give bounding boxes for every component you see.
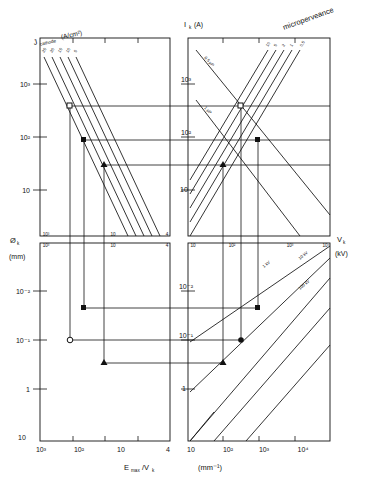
ul-family-label-5: 5 <box>73 48 79 53</box>
tick-ll-y-0_1: 10⁻¹ <box>16 337 31 344</box>
marker-point-a-lower-right <box>238 337 244 343</box>
tick-ul-y-1000: 10³ <box>20 81 31 88</box>
ul-family-label-25: 25 <box>41 46 48 53</box>
tick-bl-x-100: 10² <box>74 446 85 453</box>
lr-family-label-10kv: 10 kV <box>297 250 309 261</box>
quadrant-upper-left-frame <box>40 38 170 236</box>
marker-point-a-lower-left <box>67 337 73 343</box>
marker-point-b-lower-left <box>81 305 86 310</box>
ul-family-label-20: 20 <box>49 46 56 53</box>
marker-point-c-lower-left <box>101 359 108 365</box>
ur-family-label-5: 5 <box>273 42 279 47</box>
tick-mid-10: 10 <box>110 243 116 248</box>
tick-mid-left-1000: 10³ <box>43 243 50 248</box>
lr-family-label-100kv: 100 kV <box>297 278 310 290</box>
tick-ll-y-1: 1 <box>26 386 30 393</box>
tick-bl-x-1000: 10³ <box>36 446 47 453</box>
tick-br-x-100: 10² <box>223 446 234 453</box>
axis-label-phi-k: Ø k (mm) <box>9 236 25 261</box>
caption-microperveance: microperveance <box>282 5 335 32</box>
tick-bl-x-4: 4 <box>166 446 170 453</box>
nomogram-canvas: 10³ 10² 10 10³ 10² 10 10⁻² 10⁻¹ 1 <box>0 0 374 488</box>
axis-label-phi-k-sub: k <box>17 241 20 246</box>
marker-point-a-upper-left <box>67 103 72 108</box>
tick-br-x-10: 10 <box>187 446 195 453</box>
axis-label-vk-denom-sub: k <box>152 468 155 473</box>
ur-family-label-1: 1 <box>289 42 295 47</box>
tick-ul-bottom-1000: 10³ <box>43 232 50 237</box>
axis-label-emax: E <box>124 463 129 472</box>
axis-label-ik-main: I <box>184 20 186 29</box>
tick-mid-right-10: 10 <box>190 243 196 248</box>
curve-family-upper-right <box>190 50 300 236</box>
tick-lm-y-0_01: 10⁻² <box>179 283 194 290</box>
tick-mid-right-1000: 10³ <box>287 243 294 248</box>
tick-bl-left-10: 10 <box>18 434 26 441</box>
lr-family-label-1kv: 1 kV <box>261 259 271 268</box>
tick-br-x-10000: 10⁴ <box>298 446 309 453</box>
axis-label-ik: I k (A) <box>184 20 203 30</box>
curve-family-upper-right-descending <box>196 50 330 236</box>
axis-label-mm-inverse: (mm⁻¹) <box>198 463 222 472</box>
quadrant-lower-left-frame <box>40 243 170 441</box>
axis-label-j-cathode-main: J <box>33 37 39 47</box>
ur-family-label-10: 10 <box>265 40 272 47</box>
curve-family-upper-right-ticklabels: 10 5 2 1 0.5 <box>265 39 307 47</box>
axis-label-ik-unit: (A) <box>194 21 203 29</box>
axis-ticks-upper-left-x <box>73 38 138 43</box>
ur-family-label-0_5: 0.5 <box>299 39 307 47</box>
axis-label-vk-unit: (kV) <box>335 250 348 258</box>
quadrant-lower-right-frame <box>188 243 330 441</box>
lower-right-corner-stub <box>190 412 214 441</box>
ul-family-label-10: 10 <box>65 46 72 53</box>
tick-mid-right-100: 10² <box>229 243 236 248</box>
tick-ul-y-10: 10 <box>22 187 30 194</box>
axis-label-vk: V k (kV) <box>335 235 348 258</box>
axis-ticks-bottom-left-x <box>73 436 138 441</box>
curve-family-upper-left <box>44 57 160 236</box>
ur-diag-label-b: 1 µP <box>203 105 213 115</box>
marker-point-b-upper-right <box>255 137 260 142</box>
axis-ticks-upper-right-x <box>223 38 295 43</box>
marker-point-a-upper-right <box>238 103 243 108</box>
tick-ul-bottom-10: 10 <box>110 232 116 237</box>
trace-lines-point-a <box>70 106 330 340</box>
axis-ticks-bottom-right-x <box>223 436 295 441</box>
axis-label-j-cathode-unit: (A/cm²) <box>60 29 83 41</box>
axis-label-emax-sub: max <box>131 468 140 473</box>
tick-ul-y-100: 10² <box>20 134 31 141</box>
nomogram-figure: 10³ 10² 10 10³ 10² 10 10⁻² 10⁻¹ 1 <box>0 0 374 488</box>
axis-label-phi-k-unit: (mm) <box>9 253 25 261</box>
axis-label-vk-main: V <box>337 235 342 244</box>
ul-family-label-15: 15 <box>57 46 64 53</box>
tick-um-y-10: 10 <box>180 186 188 193</box>
axis-label-vk-sub: k <box>343 240 346 245</box>
ur-family-label-2: 2 <box>281 42 287 47</box>
tick-lm-y-0_1: 10⁻¹ <box>179 332 194 339</box>
trace-lines-point-c <box>104 165 330 363</box>
marker-point-b-upper-left <box>81 137 86 142</box>
tick-bl-x-10: 10 <box>117 446 125 453</box>
tick-lm-y-1: 1 <box>182 385 186 392</box>
tick-um-y-100: 10² <box>181 129 192 136</box>
axis-label-vk-denom: /V <box>142 463 149 472</box>
curve-family-upper-left-ticklabels: 25 20 15 10 5 <box>41 46 79 53</box>
marker-point-c-lower-right <box>220 359 227 365</box>
tick-mid-left-4: 4 <box>166 243 169 248</box>
axis-label-ik-sub: k <box>189 25 192 30</box>
tick-um-y-1000: 10³ <box>181 76 192 83</box>
tick-ll-y-0_01: 10⁻² <box>16 288 31 295</box>
axis-label-j-cathode-sub: cathode <box>39 38 56 46</box>
curve-family-lower-right <box>190 246 330 441</box>
tick-br-x-1000: 10³ <box>259 446 270 453</box>
tick-ul-bottom-4: 4 <box>166 232 169 237</box>
axis-label-emax-vk: E max /V k <box>124 463 155 473</box>
axis-label-phi-k-main: Ø <box>10 236 16 245</box>
marker-point-b-lower-right <box>255 305 260 310</box>
